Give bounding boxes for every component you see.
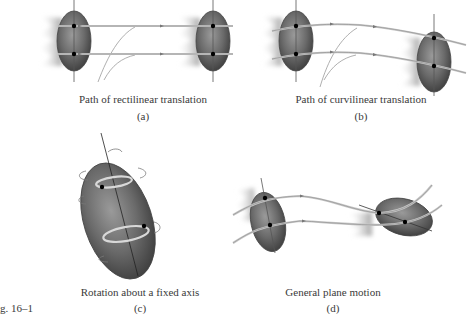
point-marker — [432, 36, 436, 40]
caption-c: Rotation about a fixed axis — [81, 286, 200, 298]
panel-c-fixed-axis-rotation: Rotation about a fixed axis (c) — [67, 133, 199, 314]
caption-b: Path of curvilinear translation — [295, 93, 427, 105]
rigid-body — [371, 192, 436, 242]
point-marker — [294, 24, 298, 28]
point-marker — [377, 211, 381, 215]
point-marker — [294, 52, 298, 56]
label-a: (a) — [137, 110, 150, 123]
panel-b-curvilinear-translation: Path of curvilinear translation (b) — [260, 0, 466, 123]
point-marker — [403, 220, 407, 224]
figure-label: g. 16–1 — [0, 302, 33, 314]
point-marker — [72, 52, 76, 56]
point-marker — [263, 196, 267, 200]
point-marker — [268, 223, 272, 227]
caption-d: General plane motion — [285, 286, 381, 298]
label-b: (b) — [355, 110, 368, 123]
point-marker — [211, 24, 215, 28]
path-curve — [324, 55, 356, 80]
point-marker — [432, 64, 436, 68]
point-marker — [211, 52, 215, 56]
point-marker — [100, 185, 104, 189]
point-marker — [142, 224, 146, 228]
label-d: (d) — [327, 302, 340, 314]
caption-a: Path of rectilinear translation — [79, 93, 207, 105]
panel-d-general-plane-motion: General plane motion (d) — [233, 178, 442, 314]
rigid-body — [67, 153, 169, 288]
label-c: (c) — [134, 302, 147, 314]
path-curve — [104, 55, 135, 80]
kinematics-figure: Path of rectilinear translation (a) Path… — [0, 0, 467, 314]
point-marker — [72, 24, 76, 28]
panel-a-rectilinear-translation: Path of rectilinear translation (a) — [38, 0, 233, 123]
